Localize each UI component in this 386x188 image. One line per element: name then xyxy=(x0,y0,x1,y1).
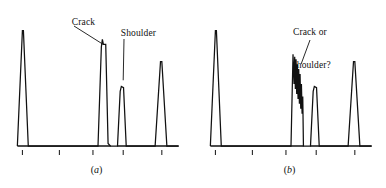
panel-a-caption: (a) xyxy=(0,164,193,175)
panel-a-plot xyxy=(0,0,193,188)
spectrum-trace xyxy=(210,31,371,146)
panel-b: Crack or shoulder? (b) xyxy=(193,0,386,188)
annotation-crack-or-shoulder-line1: Crack or xyxy=(293,27,331,38)
panel-a: Crack Shoulder (a) xyxy=(0,0,193,188)
panel-b-caption: (b) xyxy=(193,164,386,175)
annotation-shoulder-label: Shoulder xyxy=(121,28,156,38)
annotation-crack: Crack xyxy=(57,6,95,39)
annotation-shoulder: Shoulder xyxy=(106,17,156,50)
panel-a-caption-close: ) xyxy=(99,164,102,175)
annotation-crack-label: Crack xyxy=(72,17,95,27)
annotation-crack-or-shoulder-line2: shoulder? xyxy=(293,60,331,71)
annotation-crack-or-shoulder: Crack or shoulder? xyxy=(293,5,331,93)
two-panel-peak-figure: Crack Shoulder (a) Crack or shoulder? (b… xyxy=(0,0,386,188)
panel-b-plot xyxy=(193,0,386,188)
panel-b-caption-close: ) xyxy=(292,164,295,175)
